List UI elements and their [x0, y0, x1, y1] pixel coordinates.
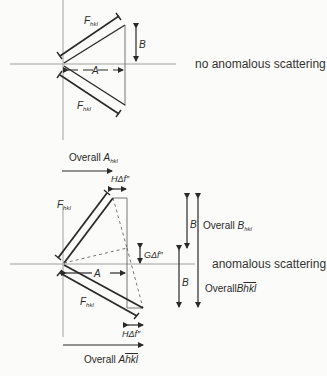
overall-b-bar-label: OverallBhkl [205, 284, 256, 294]
bottom-caption: anomalous scattering [212, 258, 326, 270]
top-caption: no anomalous scattering [195, 58, 326, 70]
b-lower-label: B [182, 278, 189, 288]
bottom-a-label: A [94, 269, 101, 279]
bottom-f-lower-vector [64, 265, 143, 308]
top-b-label: B [139, 40, 146, 50]
h-delta-top-label: HΔf″ [111, 175, 129, 184]
bottom-diagram [10, 171, 198, 345]
overall-a-bar-label: Overall Ahkl [84, 355, 138, 365]
overall-b-hkl-label: Overall Bhkl [203, 221, 252, 232]
top-f-upper-vector [64, 25, 125, 63]
top-f-upper-label: Fhkl [84, 16, 98, 27]
bottom-f-upper-label: Fhkl [57, 200, 71, 211]
bottom-f-lower-label: Fhkl [80, 297, 94, 308]
top-f-lower-label: Fhkl [77, 101, 91, 112]
g-delta-label: GΔf″ [144, 251, 163, 260]
b-upper-label: B [190, 220, 197, 230]
bottom-f-lower-bar [60, 273, 137, 316]
h-delta-bottom-label: HΔf″ [122, 330, 140, 339]
dashed-upper-diag [113, 198, 127, 248]
overall-a-hkl-label: Overall Ahkl [69, 153, 118, 164]
top-a-label: A [92, 66, 99, 76]
